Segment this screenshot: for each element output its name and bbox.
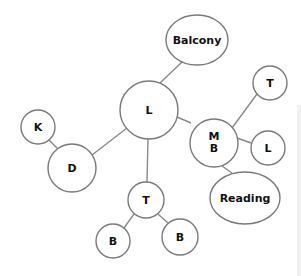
node-k[interactable]: K	[21, 110, 55, 144]
node-l-right-label: L	[264, 142, 271, 155]
node-b-left[interactable]: B	[96, 224, 130, 258]
edge-l-t-bottom	[147, 139, 148, 182]
node-balcony-label: Balcony	[173, 34, 222, 47]
node-d-label: D	[67, 162, 76, 175]
edge-k-d	[49, 140, 58, 149]
node-mb-label-line2: B	[210, 142, 218, 155]
edge-mb-t-top	[232, 94, 257, 128]
node-l-right[interactable]: L	[251, 131, 285, 165]
edge-l-balcony	[160, 62, 182, 83]
node-b-right[interactable]: B	[162, 219, 198, 255]
edge-l-d	[92, 128, 127, 155]
edge-t-bottom-b-left	[124, 214, 134, 228]
node-t-top[interactable]: T	[253, 66, 287, 100]
node-b-left-label: B	[109, 235, 117, 248]
node-k-label: K	[34, 121, 43, 134]
edge-t-bottom-b-right	[158, 214, 168, 223]
mind-map-diagram: Balcony L M B T L Reading K D T B B	[0, 0, 301, 276]
edge-l-mb	[177, 117, 191, 123]
edge-mb-l-right	[237, 138, 251, 143]
node-reading[interactable]: Reading	[210, 172, 280, 224]
node-balcony[interactable]: Balcony	[166, 15, 228, 65]
node-mb[interactable]: M B	[190, 119, 238, 167]
edge-mb-reading	[222, 166, 232, 173]
node-b-right-label: B	[176, 231, 184, 244]
node-l-center-label: L	[145, 104, 152, 117]
node-d[interactable]: D	[48, 144, 96, 192]
node-l-center[interactable]: L	[120, 81, 178, 139]
node-t-bottom[interactable]: T	[128, 182, 164, 218]
node-t-top-label: T	[266, 77, 274, 90]
node-reading-label: Reading	[220, 192, 271, 205]
right-edge-band	[297, 105, 301, 276]
node-t-bottom-label: T	[142, 194, 150, 207]
